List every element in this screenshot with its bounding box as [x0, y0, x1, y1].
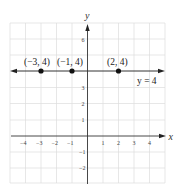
x-tick: −1	[67, 140, 73, 146]
x-tick: −2	[52, 140, 58, 146]
y-tick: 2	[82, 101, 85, 107]
y-axis	[85, 24, 89, 184]
x-axis	[11, 134, 166, 138]
point-neg3-4	[38, 68, 43, 73]
x-tick: −3	[36, 140, 42, 146]
point-label-neg3-4: (−3, 4)	[24, 57, 50, 68]
x-tick: 1	[102, 140, 105, 146]
x-axis-label: x	[168, 131, 174, 142]
y-axis-arrow-icon	[85, 24, 89, 31]
line-label: y = 4	[137, 76, 157, 86]
x-tick: −4	[20, 140, 26, 146]
y-tick: 3	[82, 85, 85, 91]
point-label-2-4: (2, 4)	[107, 57, 128, 68]
y-tick: −2	[79, 165, 85, 171]
y-tick: 1	[82, 117, 85, 123]
y-tick: −1	[79, 149, 85, 155]
coordinate-plane: y x (−3, 4) (−1, 4) (2, 4) y = 4 −4 −3 −…	[0, 0, 179, 188]
point-neg1-4	[69, 68, 74, 73]
y-axis-label: y	[84, 10, 90, 21]
x-tick: 4	[148, 140, 151, 146]
x-tick: 2	[117, 140, 120, 146]
y-tick: 6	[82, 37, 85, 43]
x-tick-labels: −4 −3 −2 −1 1 2 3 4	[20, 140, 151, 146]
x-tick: 3	[133, 140, 136, 146]
line-left-arrow-icon	[10, 69, 17, 73]
point-2-4	[116, 68, 121, 73]
line-right-arrow-icon	[158, 69, 165, 73]
point-label-neg1-4: (−1, 4)	[57, 57, 83, 68]
